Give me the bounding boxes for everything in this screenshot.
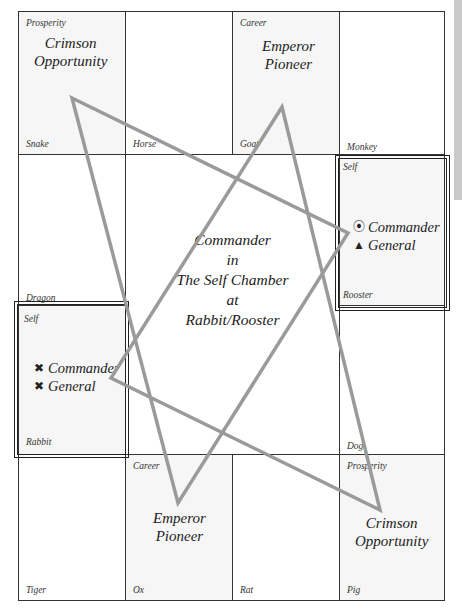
cell-rat: Rat	[233, 455, 340, 600]
mark-label: General	[368, 236, 416, 254]
mark-general: ▲ General	[352, 236, 440, 254]
star-line: Opportunity	[355, 532, 428, 550]
triangle-icon: ▲	[352, 236, 366, 254]
mark-label: General	[48, 377, 96, 395]
star-line: Crimson	[355, 514, 428, 532]
cell-goat: Career Goat	[233, 12, 340, 155]
cell-dragon: Dragon	[19, 155, 126, 306]
rooster-marks: ⦿ Commander ▲ General	[352, 218, 440, 254]
mark-label: Commander	[48, 359, 120, 377]
mark-commander: ✖ Commander	[32, 359, 120, 377]
star-line: Pioneer	[153, 527, 206, 545]
x-mark-icon: ✖	[32, 377, 46, 395]
mark-commander: ⦿ Commander	[352, 218, 440, 236]
cell-horse: Horse	[126, 12, 233, 155]
palace-label: Self	[24, 314, 38, 324]
star-emperor-pioneer-top: Emperor Pioneer	[262, 37, 315, 73]
palace-label: Career	[133, 461, 160, 471]
branch-label: Goat	[240, 139, 259, 149]
branch-label: Snake	[26, 139, 49, 149]
branch-label: Monkey	[347, 142, 377, 152]
x-mark-icon: ✖	[32, 359, 46, 377]
star-line: Emperor	[262, 37, 315, 55]
mark-general: ✖ General	[32, 377, 120, 395]
star-line: Pioneer	[262, 55, 315, 73]
rabbit-marks: ✖ Commander ✖ General	[32, 359, 120, 395]
star-line: Crimson	[34, 34, 107, 52]
center-line: The Self Chamber	[125, 270, 340, 290]
center-line: Commander	[125, 230, 340, 250]
center-line: at	[125, 290, 340, 310]
branch-label: Rat	[240, 585, 253, 595]
branch-label: Rooster	[343, 290, 373, 300]
branch-label: Horse	[133, 139, 156, 149]
cell-dog: Dog	[340, 306, 444, 455]
branch-label: Dragon	[26, 293, 56, 303]
mark-label: Commander	[368, 218, 440, 236]
center-line: in	[125, 250, 340, 270]
branch-label: Tiger	[26, 585, 46, 595]
palace-label: Self	[343, 162, 357, 172]
circle-dot-icon: ⦿	[352, 218, 366, 236]
cell-monkey: Monkey	[340, 12, 444, 155]
center-line: Rabbit/Rooster	[125, 310, 340, 330]
cell-tiger: Tiger	[19, 455, 126, 600]
palace-label: Career	[240, 18, 267, 28]
star-crimson-opportunity-bottom: Crimson Opportunity	[355, 514, 428, 550]
branch-label: Pig	[347, 585, 360, 595]
star-crimson-opportunity-top: Crimson Opportunity	[34, 34, 107, 70]
center-description: Commander in The Self Chamber at Rabbit/…	[125, 230, 340, 330]
palace-label: Prosperity	[347, 461, 387, 471]
star-line: Opportunity	[34, 52, 107, 70]
branch-label: Rabbit	[26, 437, 51, 447]
star-line: Emperor	[153, 509, 206, 527]
page-edge-strip	[454, 0, 462, 200]
palace-label: Prosperity	[26, 18, 66, 28]
branch-label: Ox	[133, 585, 144, 595]
star-emperor-pioneer-bottom: Emperor Pioneer	[153, 509, 206, 545]
branch-label: Dog	[347, 441, 363, 451]
